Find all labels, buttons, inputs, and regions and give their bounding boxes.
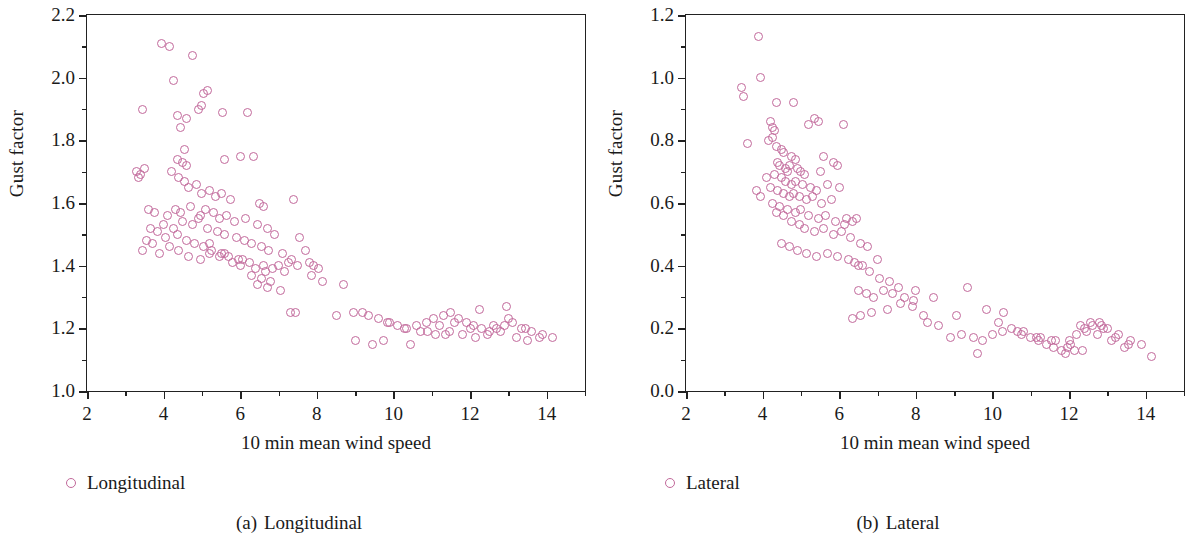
scatter-point xyxy=(441,330,450,339)
y-axis-label-a: Gust factor xyxy=(6,110,32,197)
x-tick-major xyxy=(763,391,765,399)
panel-longitudinal: Gust factor 1.01.21.41.61.82.02.22468101… xyxy=(0,0,598,546)
scatter-point xyxy=(226,195,235,204)
x-tick-major xyxy=(240,391,242,399)
y-tick-major xyxy=(678,266,686,268)
scatter-point xyxy=(827,195,836,204)
y-tick-major xyxy=(678,15,686,17)
x-tick-label: 4 xyxy=(159,403,169,425)
scatter-point xyxy=(186,202,195,211)
x-tick-label: 6 xyxy=(235,403,245,425)
scatter-point xyxy=(819,152,828,161)
scatter-point xyxy=(523,336,532,345)
x-tick-major xyxy=(317,391,319,399)
y-tick-minor xyxy=(681,297,686,298)
scatter-point xyxy=(957,330,966,339)
scatter-point xyxy=(1013,327,1022,336)
scatter-point xyxy=(823,180,832,189)
caption-b: (b)Lateral xyxy=(599,512,1197,534)
scatter-point xyxy=(793,246,802,255)
scatter-point xyxy=(804,211,813,220)
x-tick-label: 2 xyxy=(681,403,691,425)
scatter-point xyxy=(929,293,938,302)
scatter-point xyxy=(837,227,846,236)
scatter-point xyxy=(1086,318,1095,327)
open-circle-icon xyxy=(665,478,675,488)
x-tick-major xyxy=(1146,391,1148,399)
scatter-point xyxy=(293,261,302,270)
scatter-point xyxy=(973,349,982,358)
x-tick-minor xyxy=(355,391,356,396)
y-tick-minor xyxy=(681,109,686,110)
y-tick-major xyxy=(678,391,686,393)
scatter-point xyxy=(349,308,358,317)
scatter-point xyxy=(999,308,1008,317)
scatter-point xyxy=(150,208,159,217)
scatter-point xyxy=(934,321,943,330)
scatter-point xyxy=(879,286,888,295)
caption-number-b: (b) xyxy=(857,512,879,533)
scatter-point xyxy=(998,327,1007,336)
scatter-point xyxy=(475,305,484,314)
scatter-point xyxy=(856,311,865,320)
y-tick-minor xyxy=(82,234,87,235)
scatter-point xyxy=(264,246,273,255)
scatter-point xyxy=(278,249,287,258)
y-tick-major xyxy=(678,78,686,80)
scatter-point xyxy=(196,255,205,264)
plot-area-longitudinal: 1.01.21.41.61.82.02.22468101214 xyxy=(86,14,586,392)
x-axis-label-b: 10 min mean wind speed xyxy=(685,432,1185,454)
y-tick-label: 1.6 xyxy=(51,192,75,214)
x-tick-minor xyxy=(432,391,433,396)
scatter-point xyxy=(332,311,341,320)
scatter-point xyxy=(385,318,394,327)
x-tick-major xyxy=(839,391,841,399)
scatter-point xyxy=(307,271,316,280)
scatter-point xyxy=(823,249,832,258)
scatter-point xyxy=(994,318,1003,327)
scatter-point xyxy=(169,76,178,85)
scatter-point xyxy=(814,117,823,126)
x-tick-minor xyxy=(202,391,203,396)
scatter-point xyxy=(241,214,250,223)
scatter-point xyxy=(217,189,226,198)
scatter-point xyxy=(521,324,530,333)
scatter-point xyxy=(812,252,821,261)
scatter-point xyxy=(174,246,183,255)
scatter-point xyxy=(819,224,828,233)
legend-label-b: Lateral xyxy=(686,472,740,494)
y-tick-major xyxy=(79,266,87,268)
scatter-point xyxy=(431,330,440,339)
scatter-point xyxy=(280,267,289,276)
scatter-point xyxy=(318,277,327,286)
y-tick-label: 0.8 xyxy=(650,129,674,151)
scatter-point xyxy=(800,224,809,233)
scatter-point xyxy=(946,333,955,342)
scatter-point xyxy=(236,152,245,161)
scatter-point xyxy=(952,311,961,320)
caption-number-a: (a) xyxy=(236,512,257,533)
y-tick-label: 2.0 xyxy=(51,67,75,89)
scatter-point xyxy=(138,246,147,255)
scatter-point xyxy=(743,139,752,148)
scatter-point xyxy=(988,330,997,339)
x-tick-major xyxy=(393,391,395,399)
x-tick-minor xyxy=(1107,391,1108,396)
scatter-point xyxy=(138,105,147,114)
scatter-point xyxy=(148,239,157,248)
x-tick-minor xyxy=(1031,391,1032,396)
y-tick-minor xyxy=(681,234,686,235)
scatter-point xyxy=(739,92,748,101)
scatter-point xyxy=(450,318,459,327)
y-tick-minor xyxy=(681,46,686,47)
x-tick-label: 10 xyxy=(384,403,403,425)
y-tick-label: 0.2 xyxy=(650,317,674,339)
y-tick-major xyxy=(79,15,87,17)
scatter-point xyxy=(817,199,826,208)
scatter-point xyxy=(846,233,855,242)
scatter-point xyxy=(466,324,475,333)
y-tick-major xyxy=(79,203,87,205)
scatter-point xyxy=(165,242,174,251)
scatter-point xyxy=(908,302,917,311)
scatter-point xyxy=(180,145,189,154)
